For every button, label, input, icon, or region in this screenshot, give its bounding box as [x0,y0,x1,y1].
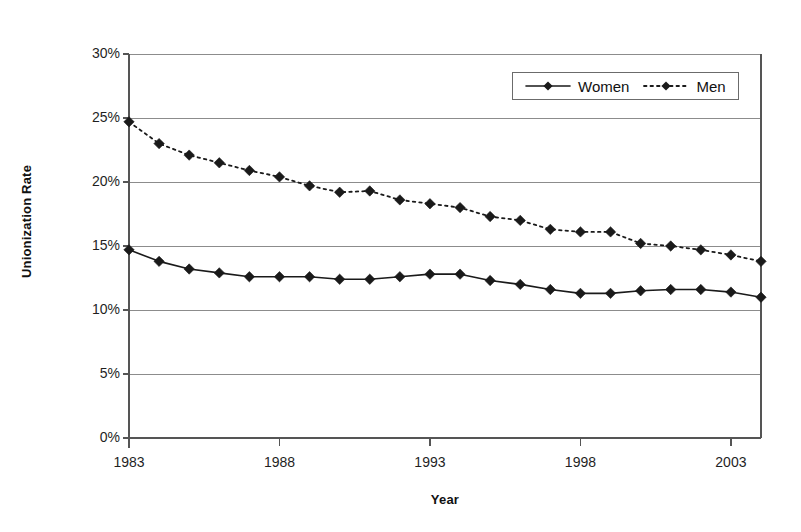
legend-diamond-marker-icon [543,81,552,90]
x-tick-label: 2003 [715,454,746,470]
x-tick-label: 1983 [113,454,144,470]
x-tick-label: 1993 [414,454,445,470]
legend-entry-men: Men [643,79,725,94]
x-axis-title: Year [129,492,761,507]
x-tick-label: 1988 [264,454,295,470]
legend-swatch-women-icon [525,80,571,92]
legend-label: Men [696,79,725,94]
legend-label: Women [578,79,629,94]
legend-entry-women: Women [525,79,629,94]
legend-diamond-marker-icon [662,81,671,90]
unionization-rate-line-chart: Unionization Rate 30%25%20%15%10%5%0% 19… [0,0,801,532]
legend-swatch-men-icon [643,80,689,92]
chart-legend: WomenMen [512,72,739,100]
x-tick-label: 1998 [565,454,596,470]
